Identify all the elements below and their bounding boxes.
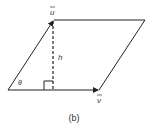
right-angle-marker xyxy=(44,81,53,90)
parallelogram-diagram: u h θ v (b) xyxy=(0,0,147,134)
right-edge xyxy=(99,20,145,90)
label-v: v xyxy=(97,95,102,105)
label-u: u xyxy=(50,7,55,17)
label-theta: θ xyxy=(18,79,22,86)
caption: (b) xyxy=(69,113,80,123)
svg-text:v: v xyxy=(97,96,102,105)
svg-text:u: u xyxy=(50,8,55,17)
vector-u-arrow xyxy=(8,21,53,90)
label-h: h xyxy=(58,53,63,62)
